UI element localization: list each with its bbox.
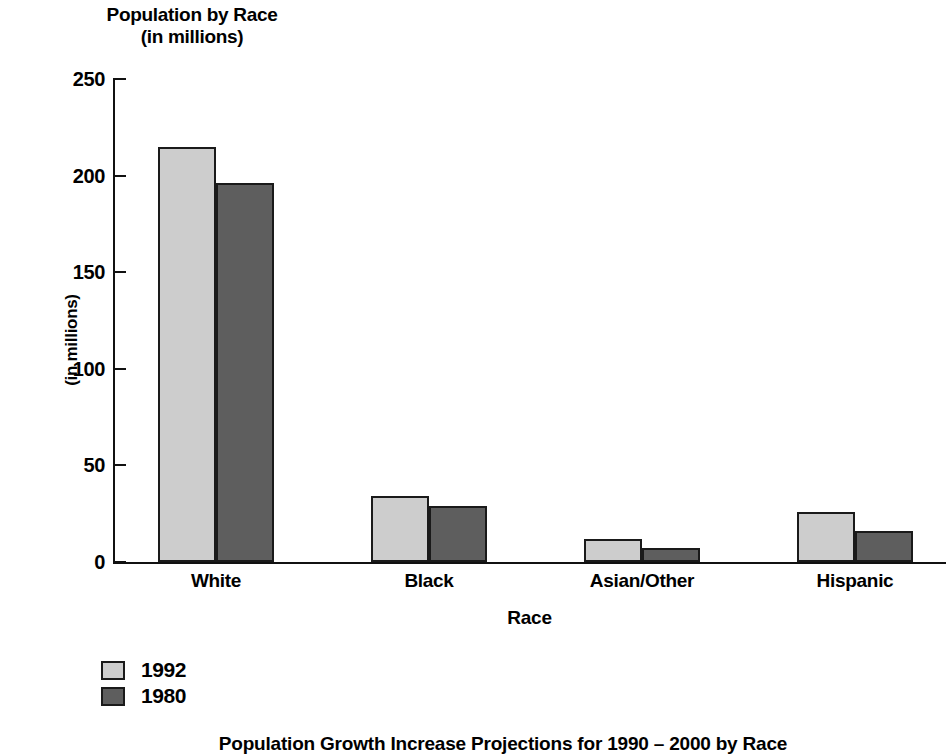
y-axis-line [113,79,115,564]
bar-black-1992 [371,496,429,562]
chart-subtitle: (in millions) [62,26,322,48]
legend-label-1980: 1980 [141,684,186,708]
legend-item-1992[interactable]: 1992 [101,658,186,682]
x-tick-label-asian-other: Asian/Other [544,570,740,592]
y-tick-label: 150 [45,261,105,284]
bar-hispanic-1992 [797,512,855,562]
y-tick-mark [113,175,126,177]
y-tick-label: 200 [45,164,105,187]
y-tick-mark [113,464,126,466]
legend-item-1980[interactable]: 1980 [101,684,186,708]
bar-white-1980 [216,183,274,562]
chart-legend: 1992 1980 [101,658,186,710]
x-axis-line [113,562,946,564]
bar-asian-other-1992 [584,539,642,562]
bar-black-1980 [429,506,487,562]
legend-swatch-icon-1980 [101,687,125,706]
y-tick-label: 250 [45,68,105,91]
x-tick-label-hispanic: Hispanic [757,570,947,592]
figure-caption: Population Growth Increase Projections f… [113,733,893,755]
legend-label-1992: 1992 [141,658,186,682]
y-tick-mark [113,561,126,563]
y-tick-label: 0 [45,551,105,574]
legend-swatch-icon-1992 [101,661,125,680]
x-tick-label-black: Black [331,570,527,592]
y-tick-mark [113,368,126,370]
bar-hispanic-1980 [855,531,913,562]
y-tick-label: 100 [45,357,105,380]
x-axis-label: Race [113,607,946,629]
y-tick-label: 50 [45,454,105,477]
chart-title-block: Population by Race (in millions) [62,4,322,49]
page-title: Population by Race [62,4,322,26]
x-tick-label-white: White [118,570,314,592]
y-tick-mark [113,271,126,273]
y-tick-mark [113,78,126,80]
bar-white-1992 [158,147,216,562]
bar-asian-other-1980 [642,548,700,562]
